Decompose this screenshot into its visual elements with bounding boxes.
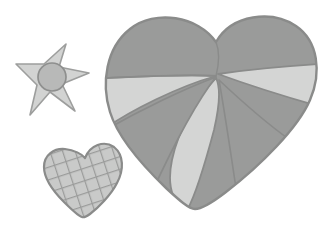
- illustration-canvas: Decorative Shapes Illustration: [0, 0, 333, 236]
- star-center-circle: [38, 63, 66, 91]
- shapes-svg-canvas: Decorative Shapes Illustration: [0, 0, 333, 236]
